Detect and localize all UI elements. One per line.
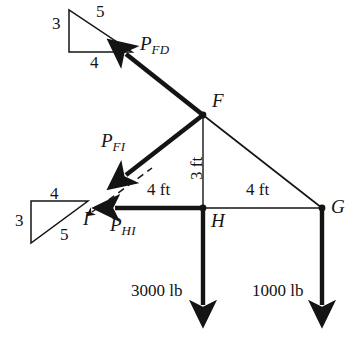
dashed-line-IF: [92, 168, 152, 212]
dashed-arrowhead-I: [92, 203, 105, 212]
node-label-H: H: [211, 211, 225, 230]
slope-triangle-bottom-hypotenuse-label: 5: [60, 226, 69, 243]
node-label-I: I: [83, 209, 89, 228]
force-vector-PFD: [126, 54, 203, 115]
force-label-PHI: PHI: [110, 215, 136, 237]
joint-dot-H: [200, 205, 207, 212]
slope-triangle-bottom-vertical-label: 3: [15, 212, 24, 229]
load-label-H: 3000 lb: [131, 282, 182, 299]
force-subscript-PFD: FD: [152, 42, 170, 57]
force-subscript-PHI: HI: [122, 223, 136, 238]
force-symbol-PFI: P: [101, 130, 113, 151]
slope-triangle-top-vertical-label: 3: [52, 15, 61, 32]
joint-dot-F: [200, 112, 207, 119]
force-symbol-PHI: P: [110, 214, 122, 235]
node-label-G: G: [331, 197, 345, 216]
slope-triangle-bottom-horizontal-label: 4: [50, 185, 59, 202]
force-label-PFI: PFI: [101, 131, 125, 153]
dimension-label-IH: 4 ft: [147, 181, 170, 198]
force-label-PFD: PFD: [140, 34, 170, 56]
figure-root: 3 5 4 4 3 5 F H G I PFD PFI PHI 4 ft 4 f…: [0, 0, 351, 347]
slope-triangle-top-horizontal-label: 4: [90, 54, 99, 71]
node-label-F: F: [212, 91, 224, 110]
dimension-label-HG: 4 ft: [246, 181, 269, 198]
load-label-G: 1000 lb: [252, 282, 303, 299]
force-subscript-PFI: FI: [113, 139, 126, 154]
dimension-label-FH: 3 ft: [187, 157, 207, 180]
slope-triangle-top-hypotenuse-label: 5: [96, 3, 105, 20]
force-symbol-PFD: P: [140, 33, 152, 54]
joint-dot-G: [319, 205, 326, 212]
